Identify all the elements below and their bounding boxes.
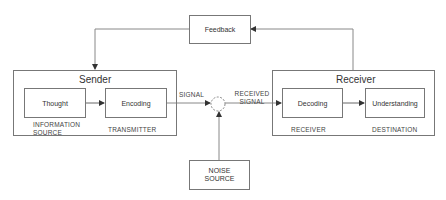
receiver-title: Receiver bbox=[336, 74, 375, 85]
thought-box: Thought bbox=[24, 88, 86, 118]
noise-source-label: NOISE SOURCE bbox=[203, 167, 237, 183]
thought-label: Thought bbox=[42, 100, 68, 107]
receiver-caption: RECEIVER bbox=[291, 126, 326, 134]
noise-mixer-node bbox=[211, 97, 225, 111]
destination-caption: DESTINATION bbox=[372, 126, 417, 134]
understanding-box: Understanding bbox=[365, 88, 425, 118]
received-signal-label: RECEIVED SIGNAL bbox=[232, 90, 272, 106]
information-source-caption: INFORMATION SOURCE bbox=[33, 121, 83, 137]
understanding-label: Understanding bbox=[372, 100, 418, 107]
decoding-label: Decoding bbox=[298, 100, 328, 107]
noise-source-box: NOISE SOURCE bbox=[189, 160, 250, 190]
sender-title: Sender bbox=[79, 74, 111, 85]
transmitter-caption: TRANSMITTER bbox=[108, 126, 156, 134]
decoding-box: Decoding bbox=[282, 88, 343, 118]
encoding-box: Encoding bbox=[105, 88, 167, 118]
feedback-label: Feedback bbox=[205, 26, 236, 33]
encoding-label: Encoding bbox=[121, 100, 150, 107]
feedback-box: Feedback bbox=[189, 15, 251, 44]
signal-label: SIGNAL bbox=[179, 91, 204, 99]
